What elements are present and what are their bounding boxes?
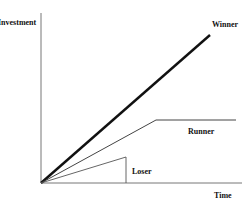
investment-time-diagram: Investment Winner Runner Loser Time [0, 0, 248, 204]
winner-line [41, 35, 210, 183]
loser-label: Loser [132, 167, 152, 176]
winner-label: Winner [212, 20, 239, 29]
loser-line [41, 157, 126, 183]
runner-label: Runner [188, 127, 215, 136]
y-axis-label: Investment [0, 18, 37, 27]
x-axis-label: Time [214, 191, 232, 200]
